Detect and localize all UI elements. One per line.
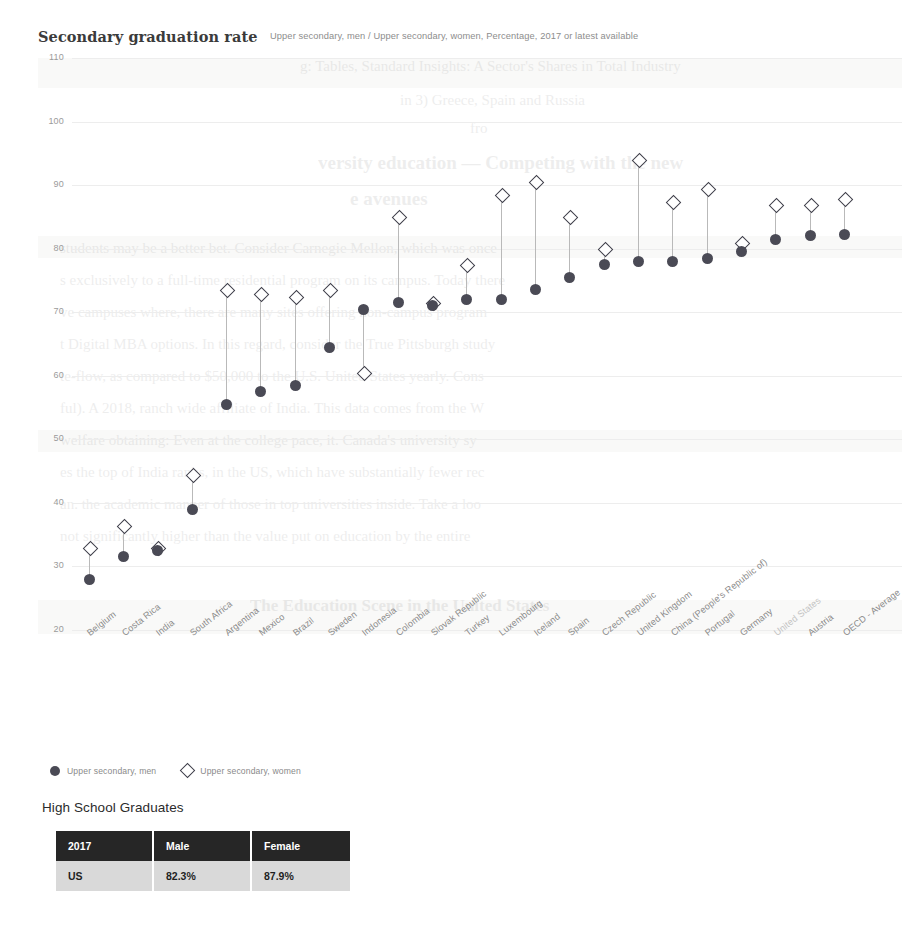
data-point-men[interactable] (770, 234, 781, 245)
data-point-women[interactable] (254, 286, 270, 302)
table-header-cell: 2017 (56, 831, 153, 861)
data-point-men[interactable] (633, 256, 644, 267)
table-head: 2017 Male Female (56, 831, 350, 861)
data-point-men[interactable] (187, 504, 198, 515)
page-title: Secondary graduation rate (38, 28, 258, 45)
chart-plot-area: 1101009080706050403020 (38, 58, 902, 630)
open-diamond-icon (180, 763, 196, 779)
data-point-men[interactable] (84, 574, 95, 585)
data-point-women[interactable] (82, 541, 98, 557)
data-point-men[interactable] (118, 551, 129, 562)
data-point-men[interactable] (564, 272, 575, 283)
data-point-women[interactable] (220, 283, 236, 299)
data-point-men[interactable] (599, 259, 610, 270)
data-point-men[interactable] (530, 284, 541, 295)
data-point-women[interactable] (666, 194, 682, 210)
data-point-women[interactable] (838, 192, 854, 208)
data-point-men[interactable] (461, 294, 472, 305)
data-point-men[interactable] (839, 229, 850, 240)
data-point-women[interactable] (597, 242, 613, 258)
table-body: US 82.3% 87.9% (56, 861, 350, 891)
data-point-men[interactable] (393, 297, 404, 308)
data-point-women[interactable] (529, 175, 545, 191)
filled-circle-icon (50, 766, 60, 776)
table-header-row: 2017 Male Female (56, 831, 350, 861)
x-axis-label-layer: BelgiumCosta RicaIndiaSouth AfricaArgent… (38, 630, 902, 750)
data-point-women[interactable] (700, 182, 716, 198)
high-school-graduates-table: 2017 Male Female US 82.3% 87.9% (56, 831, 350, 891)
data-point-men[interactable] (667, 256, 678, 267)
data-point-men[interactable] (805, 230, 816, 241)
chart-subtitle: Upper secondary, men / Upper secondary, … (270, 31, 638, 41)
table-header-cell: Male (153, 831, 251, 861)
legend-item-men[interactable]: Upper secondary, men (50, 766, 156, 776)
data-point-women[interactable] (323, 283, 339, 299)
connector-stem (226, 290, 227, 404)
data-point-men[interactable] (358, 304, 369, 315)
data-point-men[interactable] (427, 300, 438, 311)
connector-stem (569, 217, 570, 277)
data-point-women[interactable] (460, 258, 476, 274)
chart-legend: Upper secondary, men Upper secondary, wo… (50, 765, 301, 776)
legend-label-women: Upper secondary, women (200, 766, 301, 776)
data-point-women[interactable] (632, 153, 648, 169)
high-school-graduates-block: High School Graduates 2017 Male Female U… (42, 800, 350, 891)
table-caption: High School Graduates (42, 800, 350, 815)
connector-stem (535, 182, 536, 290)
connector-stem (501, 195, 502, 300)
data-point-men[interactable] (221, 399, 232, 410)
data-point-men[interactable] (290, 380, 301, 391)
data-point-men[interactable] (736, 246, 747, 257)
data-point-men[interactable] (496, 294, 507, 305)
data-point-women[interactable] (769, 197, 785, 213)
connector-stem (398, 217, 399, 303)
data-point-men[interactable] (255, 386, 266, 397)
data-point-men[interactable] (152, 545, 163, 556)
connector-stem (260, 293, 261, 392)
data-point-women[interactable] (803, 197, 819, 213)
table-cell-male: 82.3% (153, 861, 251, 891)
legend-label-men: Upper secondary, men (67, 766, 156, 776)
chart-header: Secondary graduation rate Upper secondar… (38, 28, 638, 46)
data-point-women[interactable] (288, 290, 304, 306)
data-series-layer (38, 58, 902, 630)
data-point-women[interactable] (117, 518, 133, 534)
table-header-cell: Female (251, 831, 350, 861)
data-point-women[interactable] (563, 210, 579, 226)
table-cell-region: US (56, 861, 153, 891)
connector-stem (707, 188, 708, 258)
data-point-men[interactable] (702, 253, 713, 264)
data-point-women[interactable] (494, 188, 510, 204)
data-point-women[interactable] (357, 366, 373, 382)
data-point-women[interactable] (185, 468, 201, 484)
connector-stem (295, 296, 296, 385)
legend-item-women[interactable]: Upper secondary, women (182, 765, 301, 776)
connector-stem (363, 309, 364, 373)
connector-stem (638, 160, 639, 262)
table-cell-female: 87.9% (251, 861, 350, 891)
data-point-women[interactable] (391, 210, 407, 226)
table-row: US 82.3% 87.9% (56, 861, 350, 891)
data-point-men[interactable] (324, 342, 335, 353)
